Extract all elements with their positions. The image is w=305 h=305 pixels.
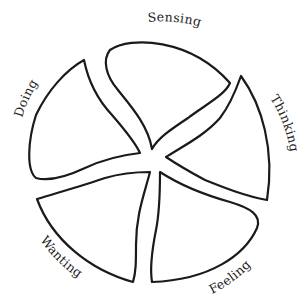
label-thinking: Thinking xyxy=(267,92,302,153)
label-sensing: Sensing xyxy=(147,9,203,29)
five-petal-diagram: Sensing Thinking Feeling Wanting Doing xyxy=(0,0,305,305)
petal-wanting: Wanting xyxy=(37,172,150,282)
petal-wanting-shape xyxy=(37,172,150,282)
